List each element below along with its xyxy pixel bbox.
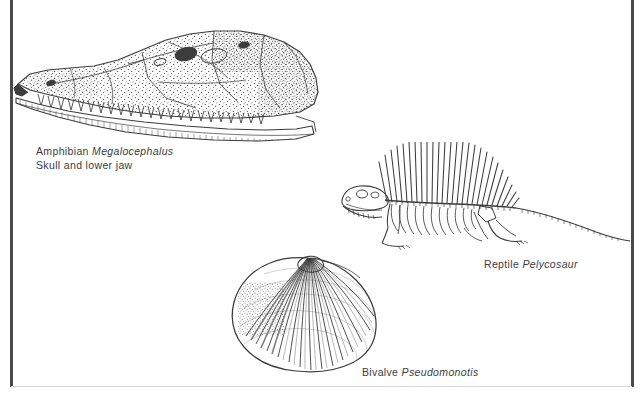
bivalve-common-name: Bivalve [362,366,398,378]
page-rule-bottom [11,386,632,387]
pelycosaur-skeleton-illustration [330,142,635,254]
caption-amphibian-line1: Amphibian Megalocephalus [36,145,173,159]
amphibian-detail-line: Skull and lower jaw [36,159,173,173]
reptile-species-name: Pelycosaur [522,258,577,270]
bivalve-species-name: Pseudomonotis [402,366,479,378]
reptile-common-name: Reptile [484,258,519,270]
caption-bivalve: Bivalve Pseudomonotis [362,366,479,380]
amphibian-species-name: Megalocephalus [92,145,173,157]
bivalve-shell-illustration [224,252,389,374]
amphibian-common-name: Amphibian [36,145,89,157]
amphibian-skull-illustration [8,12,338,147]
illustration-plate: Amphibian Megalocephalus Skull and lower… [0,0,643,398]
caption-amphibian: Amphibian Megalocephalus Skull and lower… [36,145,173,172]
caption-reptile: Reptile Pelycosaur [484,258,578,272]
